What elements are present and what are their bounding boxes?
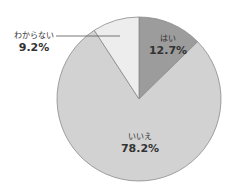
label-hai: はい 12.7% bbox=[148, 34, 188, 57]
label-iie-name: いいえ bbox=[120, 132, 160, 142]
pie-chart bbox=[0, 0, 233, 194]
label-iie-value: 78.2% bbox=[120, 142, 160, 155]
label-wakaranai-name: わからない bbox=[10, 31, 58, 41]
label-wakaranai-value: 9.2% bbox=[10, 41, 58, 54]
label-iie: いいえ 78.2% bbox=[120, 132, 160, 155]
label-hai-name: はい bbox=[148, 34, 188, 44]
label-wakaranai: わからない 9.2% bbox=[10, 31, 58, 54]
label-hai-value: 12.7% bbox=[148, 44, 188, 57]
